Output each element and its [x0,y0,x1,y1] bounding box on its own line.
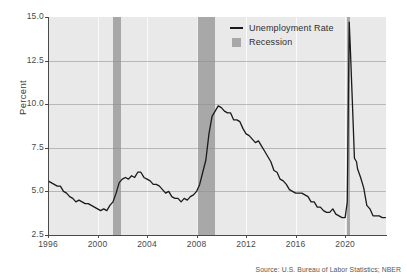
x-tick-label: 2004 [137,239,157,249]
x-tick-label: 1996 [38,239,58,249]
unemployment-rate-chart: 15.012.510.07.55.02.5 199620002004200820… [0,0,407,278]
y-tick-mark [45,191,48,192]
y-tick-mark [45,17,48,18]
legend-item-recession: Recession [228,35,334,49]
legend-label-unemployment-rate: Unemployment Rate [249,21,334,35]
source-note: Source: U.S. Bureau of Labor Statistics;… [256,266,401,273]
x-tick-mark [345,235,346,238]
y-tick-mark [45,61,48,62]
x-tick-label: 2000 [88,239,108,249]
plot-area [48,17,386,235]
x-tick-mark [197,235,198,238]
swatch-key-icon [228,38,244,47]
y-axis-label: Percent [17,58,28,138]
y-tick-mark [45,148,48,149]
y-tick-mark [45,104,48,105]
y-tick-label: 7.5 [6,142,44,152]
x-tick-label: 2020 [335,239,355,249]
y-tick-label: 15.0 [6,11,44,21]
legend-label-recession: Recession [249,35,292,49]
x-tick-mark [48,235,49,238]
chart-legend: Unemployment Rate Recession [228,21,334,49]
legend-item-unemployment-rate: Unemployment Rate [228,21,334,35]
y-tick-label: 5.0 [6,185,44,195]
x-tick-mark [98,235,99,238]
x-tick-mark [147,235,148,238]
x-tick-label: 2012 [236,239,256,249]
x-tick-label: 2008 [187,239,207,249]
x-tick-mark [246,235,247,238]
line-key-icon [228,27,244,29]
x-tick-mark [296,235,297,238]
series-canvas [48,17,386,235]
x-tick-label: 2016 [286,239,306,249]
series-line-unemployment-rate [48,22,385,217]
y-tick-label: 2.5 [6,229,44,239]
